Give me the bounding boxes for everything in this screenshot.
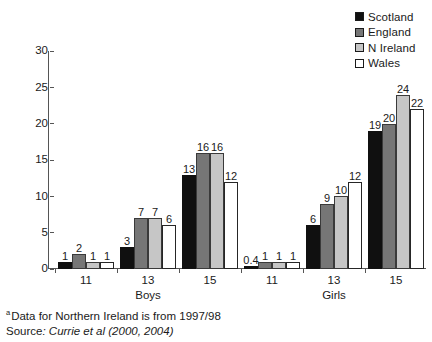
x-axis-tick-mark: [241, 269, 242, 273]
x-axis-group-label: 11: [80, 274, 92, 286]
bar-girls_15-nireland: 24: [396, 95, 410, 269]
bar-boys_11-nireland: 1: [86, 262, 100, 269]
legend-swatch-icon: [355, 12, 364, 21]
bar-girls_13-wales: 12: [348, 182, 362, 269]
bar-value-label: 12: [225, 171, 237, 182]
bar-boys_11-scotland: 1: [58, 262, 72, 269]
bar-value-label: 7: [138, 207, 144, 218]
x-axis-tick-mark: [117, 269, 118, 273]
bar-value-label: 13: [183, 164, 195, 175]
bar-value-label: 6: [310, 214, 316, 225]
x-axis-tick-mark: [365, 269, 366, 273]
legend-item-label: England: [368, 26, 411, 38]
bar-boys_11-wales: 1: [100, 262, 114, 269]
bar-group-boys_15: 13161612: [182, 51, 238, 269]
bar-value-label: 20: [383, 113, 395, 124]
y-axis-tick-mark: [50, 196, 54, 197]
bar-girls_13-nireland: 10: [334, 196, 348, 269]
bar-value-label: 1: [90, 251, 96, 262]
bar-group-girls_15: 19202422: [368, 51, 424, 269]
bar-girls_13-scotland: 6: [306, 225, 320, 269]
bar-value-label: 9: [324, 193, 330, 204]
x-axis-tick-mark: [55, 269, 56, 273]
bar-girls_15-england: 20: [382, 124, 396, 269]
bar-girls_11-england: 1: [258, 262, 272, 269]
x-axis-group-label: 15: [204, 274, 217, 286]
bar-value-label: 24: [397, 84, 409, 95]
y-axis-tick-label: 10: [35, 191, 50, 203]
x-axis-section-label: Boys: [135, 289, 161, 301]
chart-footnotes: aData for Northern Ireland is from 1997/…: [6, 305, 426, 339]
bar-value-label: 1: [104, 251, 110, 262]
bar-group-girls_13: 691012: [306, 51, 362, 269]
x-axis-group-label: 13: [142, 274, 155, 286]
footnote-note: aData for Northern Ireland is from 1997/…: [6, 305, 426, 324]
y-axis-tick-label: 5: [42, 227, 50, 239]
bar-boys_13-scotland: 3: [120, 247, 134, 269]
plot-area: 051015202530 12113776131616120.411169101…: [48, 51, 426, 269]
y-axis-tick-label: 30: [35, 45, 50, 57]
bar-value-label: 3: [124, 236, 130, 247]
y-axis-tick-mark: [50, 160, 54, 161]
x-axis-group-label: 13: [328, 274, 341, 286]
bar-girls_11-wales: 1: [286, 262, 300, 269]
bar-boys_13-nireland: 7: [148, 218, 162, 269]
y-axis-tick-mark: [50, 87, 54, 88]
bar-value-label: 2: [76, 243, 82, 254]
footnote-marker: a: [6, 308, 10, 317]
bar-value-label: 7: [152, 207, 158, 218]
footnote-note-text: Data for Northern Ireland is from 1997/9…: [11, 310, 221, 322]
bar-boys_11-england: 2: [72, 254, 86, 269]
bar-boys_15-wales: 12: [224, 182, 238, 269]
y-axis-tick-label: 20: [35, 118, 50, 130]
bar-girls_13-england: 9: [320, 204, 334, 269]
bar-value-label: 12: [349, 171, 361, 182]
bar-girls_11-scotland: 0.4: [244, 266, 258, 269]
bar-boys_13-england: 7: [134, 218, 148, 269]
legend-swatch-icon: [355, 28, 364, 37]
bar-girls_15-wales: 22: [410, 109, 424, 269]
bar-girls_15-scotland: 19: [368, 131, 382, 269]
source-rest: : Currie et al (2000, 2004): [42, 325, 173, 337]
legend-item-england: England: [355, 25, 432, 41]
y-axis-tick-label: 25: [35, 82, 50, 94]
bar-chart: ScotlandEnglandN IrelandWales 0510152025…: [0, 0, 432, 342]
y-axis-tick-label: 15: [35, 154, 50, 166]
bar-group-boys_11: 1211: [58, 51, 114, 269]
x-axis-tick-mark: [303, 269, 304, 273]
source-prefix: Source: [6, 325, 42, 337]
bar-group-girls_11: 0.4111: [244, 51, 300, 269]
x-axis-tick-mark: [179, 269, 180, 273]
bar-value-label: 1: [262, 251, 268, 262]
y-axis-tick-mark: [50, 123, 54, 124]
y-axis-tick-mark: [50, 51, 54, 52]
bar-value-label: 1: [290, 251, 296, 262]
x-axis-section-label: Girls: [322, 289, 346, 301]
bar-value-label: 22: [411, 98, 423, 109]
legend-item-label: Scotland: [368, 11, 414, 23]
bar-boys_15-scotland: 13: [182, 175, 196, 269]
bar-value-label: 6: [166, 214, 172, 225]
bar-girls_11-nireland: 1: [272, 262, 286, 269]
y-axis-tick-label: 0: [42, 263, 50, 275]
bar-value-label: 19: [369, 120, 381, 131]
bar-boys_15-nireland: 16: [210, 153, 224, 269]
bar-value-label: 1: [276, 251, 282, 262]
bar-group-boys_13: 3776: [120, 51, 176, 269]
y-axis-tick-mark: [50, 232, 54, 233]
bar-value-label: 16: [211, 142, 223, 153]
x-axis-group-label: 11: [266, 274, 278, 286]
x-axis-group-label: 15: [390, 274, 403, 286]
bar-value-label: 0.4: [243, 255, 258, 266]
bar-boys_15-england: 16: [196, 153, 210, 269]
footnote-source: Source: Currie et al (2000, 2004): [6, 324, 426, 339]
y-axis-tick-mark: [50, 269, 54, 270]
bar-value-label: 16: [197, 142, 209, 153]
bar-value-label: 1: [62, 251, 68, 262]
legend-item-scotland: Scotland: [355, 9, 432, 25]
bar-value-label: 10: [335, 185, 347, 196]
bar-boys_13-wales: 6: [162, 225, 176, 269]
